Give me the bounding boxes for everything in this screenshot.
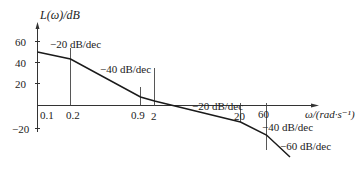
x-tick-0.9: 0.9 (131, 109, 145, 121)
slope-label-3: −20 dB/dec (192, 100, 243, 112)
x-axis-label: ω/(rad·s⁻¹) (305, 108, 355, 121)
x-tick-2: 2 (151, 110, 157, 122)
x-tick-60: 60 (258, 108, 270, 120)
y-tick-40: 40 (15, 57, 27, 69)
y-tick-neg20: −20 (12, 123, 30, 135)
slope-label-5: −60 dB/dec (280, 140, 331, 152)
x-tick-0.1: 0.1 (40, 109, 54, 121)
y-tick-20: 20 (15, 78, 27, 90)
y-axis-label: L(ω)/dB (39, 8, 80, 22)
bode-magnitude-plot: L(ω)/dB ω/(rad·s⁻¹) 60 40 20 −20 0.1 0.2… (0, 0, 364, 169)
x-tick-0.2: 0.2 (66, 109, 80, 121)
magnitude-curve (38, 52, 291, 157)
slope-label-4: −40 dB/dec (262, 121, 313, 133)
slope-label-2: −40 dB/dec (100, 63, 151, 75)
y-tick-60: 60 (15, 36, 27, 48)
slope-label-1: −20 dB/dec (50, 38, 101, 50)
